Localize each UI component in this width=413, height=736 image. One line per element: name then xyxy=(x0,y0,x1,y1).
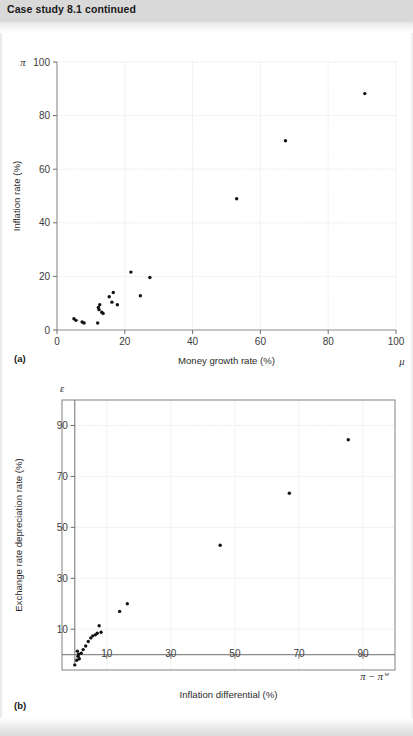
data-point xyxy=(82,321,85,324)
y-tick-label: 10 xyxy=(57,624,69,635)
data-point xyxy=(129,270,132,273)
x-tick-label: 100 xyxy=(388,336,405,347)
x-axis-symbol: π − π xyxy=(360,671,384,682)
data-point xyxy=(74,319,77,322)
data-point xyxy=(108,295,111,298)
x-tick-label: 40 xyxy=(187,336,199,347)
y-axis-title: Exchange rate depreciation rate (%) xyxy=(13,458,24,612)
scatter-plot-b: 10305070901030507090Inflation differenti… xyxy=(0,378,413,718)
data-point xyxy=(110,300,113,303)
data-point xyxy=(73,663,76,666)
data-point xyxy=(99,631,102,634)
x-axis-title: Inflation differential (%) xyxy=(180,689,278,700)
data-point xyxy=(112,291,115,294)
x-tick-label: 10 xyxy=(101,648,113,659)
y-tick-label: 30 xyxy=(57,573,69,584)
data-point xyxy=(87,640,90,643)
data-point xyxy=(78,657,81,660)
y-tick-label: 70 xyxy=(57,471,69,482)
data-point xyxy=(235,197,238,200)
gridlines xyxy=(57,62,396,330)
y-tick-label: 20 xyxy=(39,271,51,282)
data-point xyxy=(363,92,366,95)
x-axis-title: Money growth rate (%) xyxy=(178,355,275,366)
x-axis-symbol-superscript: w xyxy=(385,670,390,678)
data-point xyxy=(84,644,87,647)
page-canvas: Case study 8.1 continued 020406080100020… xyxy=(0,0,413,736)
data-point xyxy=(148,276,151,279)
page-edge-bottom xyxy=(0,718,413,736)
data-point xyxy=(116,303,119,306)
axis-ticks: 10305070901030507090 xyxy=(57,420,369,659)
page-title: Case study 8.1 continued xyxy=(7,3,136,15)
panel-label-b: (b) xyxy=(14,700,26,711)
data-point xyxy=(218,543,221,546)
data-points xyxy=(73,438,350,667)
data-point xyxy=(126,602,129,605)
data-point xyxy=(284,139,287,142)
figure-a: 020406080100020406080100Money growth rat… xyxy=(0,40,413,370)
axis-ticks: 020406080100020406080100 xyxy=(33,57,404,347)
data-point xyxy=(288,492,291,495)
data-point xyxy=(96,632,99,635)
data-point xyxy=(139,294,142,297)
y-axis-title: Inflation rate (%) xyxy=(11,161,22,231)
x-tick-label: 20 xyxy=(119,336,131,347)
x-tick-label: 70 xyxy=(293,648,305,659)
y-axis-symbol: ε xyxy=(60,383,65,394)
y-tick-label: 60 xyxy=(39,164,51,175)
x-tick-label: 0 xyxy=(54,336,60,347)
x-tick-label: 60 xyxy=(255,336,267,347)
data-points xyxy=(72,92,366,325)
y-axis-symbol: π xyxy=(20,57,26,68)
data-point xyxy=(118,610,121,613)
x-tick-label: 50 xyxy=(229,648,241,659)
x-axis-symbol: μ xyxy=(398,356,404,367)
gridlines xyxy=(62,400,395,670)
y-tick-label: 50 xyxy=(57,522,69,533)
y-tick-label: 100 xyxy=(33,57,50,68)
panel-label-a: (a) xyxy=(14,353,26,364)
x-tick-label: 80 xyxy=(323,336,335,347)
data-point xyxy=(98,303,101,306)
y-tick-label: 90 xyxy=(57,420,69,431)
data-point xyxy=(96,321,99,324)
data-point xyxy=(101,312,104,315)
data-point xyxy=(97,308,100,311)
scatter-plot-a: 020406080100020406080100Money growth rat… xyxy=(0,40,413,370)
data-point xyxy=(347,438,350,441)
data-point xyxy=(76,649,79,652)
x-tick-label: 30 xyxy=(165,648,177,659)
x-tick-label: 90 xyxy=(357,648,369,659)
data-point xyxy=(80,651,83,654)
y-tick-label: 0 xyxy=(44,325,50,336)
header-shadow xyxy=(0,22,413,33)
y-tick-label: 40 xyxy=(39,217,51,228)
data-point xyxy=(97,624,100,627)
y-tick-label: 80 xyxy=(39,110,51,121)
data-point xyxy=(81,648,84,651)
figure-b: 10305070901030507090Inflation differenti… xyxy=(0,378,413,718)
